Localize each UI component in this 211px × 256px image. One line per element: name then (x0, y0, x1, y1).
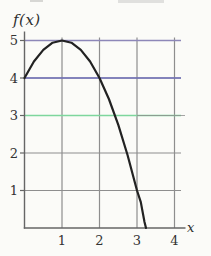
x-tick-label: 4 (170, 233, 178, 248)
x-tick-label: 1 (58, 233, 66, 248)
y-tick-label: 5 (10, 33, 18, 48)
function-graph-figure: f(x) 123451234 x (0, 0, 211, 256)
y-tick-label: 2 (10, 146, 18, 161)
plot-canvas: 123451234 (0, 0, 211, 256)
x-tick-label: 2 (95, 233, 103, 248)
y-tick-label: 3 (10, 108, 18, 123)
function-curve (25, 41, 147, 229)
x-axis-title: x (187, 220, 194, 235)
y-tick-label: 1 (10, 183, 18, 198)
y-tick-label: 4 (10, 71, 18, 86)
x-tick-label: 3 (133, 233, 141, 248)
